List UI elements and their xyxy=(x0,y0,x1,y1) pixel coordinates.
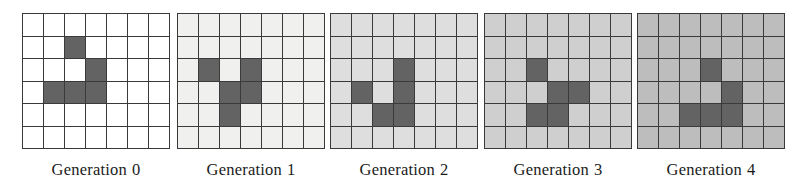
dead-cell xyxy=(722,37,743,60)
dead-cell xyxy=(178,127,199,150)
dead-cell xyxy=(743,82,764,105)
dead-cell xyxy=(659,14,680,37)
dead-cell xyxy=(611,104,632,127)
dead-cell xyxy=(569,14,590,37)
generation-panel-3: Generation3 xyxy=(484,0,632,196)
dead-cell xyxy=(107,59,128,82)
dead-cell xyxy=(436,37,457,60)
alive-cell xyxy=(394,104,415,127)
dead-cell xyxy=(743,14,764,37)
dead-cell xyxy=(457,82,478,105)
dead-cell xyxy=(199,127,220,150)
dead-cell xyxy=(352,127,373,150)
dead-cell xyxy=(485,37,506,60)
dead-cell xyxy=(178,104,199,127)
dead-cell xyxy=(220,37,241,60)
dead-cell xyxy=(680,59,701,82)
dead-cell xyxy=(128,127,149,150)
cell-grid xyxy=(330,13,478,149)
alive-cell xyxy=(394,82,415,105)
dead-cell xyxy=(86,127,107,150)
alive-cell xyxy=(220,82,241,105)
dead-cell xyxy=(611,14,632,37)
dead-cell xyxy=(764,37,785,60)
dead-cell xyxy=(611,37,632,60)
panel-caption: Generation3 xyxy=(514,160,603,180)
dead-cell xyxy=(485,127,506,150)
alive-cell xyxy=(373,104,394,127)
caption-label: Generation xyxy=(360,160,435,179)
dead-cell xyxy=(590,59,611,82)
dead-cell xyxy=(457,59,478,82)
dead-cell xyxy=(506,104,527,127)
dead-cell xyxy=(638,37,659,60)
grid-wrapper xyxy=(330,13,478,149)
dead-cell xyxy=(457,127,478,150)
generation-panel-0: Generation0 xyxy=(22,0,170,196)
dead-cell xyxy=(283,14,304,37)
dead-cell xyxy=(283,59,304,82)
cell-grid xyxy=(177,13,325,149)
dead-cell xyxy=(199,14,220,37)
dead-cell xyxy=(506,37,527,60)
alive-cell xyxy=(548,104,569,127)
dead-cell xyxy=(415,37,436,60)
caption-index: 4 xyxy=(747,160,755,179)
dead-cell xyxy=(304,37,325,60)
dead-cell xyxy=(199,37,220,60)
dead-cell xyxy=(23,59,44,82)
alive-cell xyxy=(394,59,415,82)
alive-cell xyxy=(680,104,701,127)
dead-cell xyxy=(304,82,325,105)
dead-cell xyxy=(415,104,436,127)
dead-cell xyxy=(548,14,569,37)
dead-cell xyxy=(23,37,44,60)
caption-label: Generation xyxy=(207,160,282,179)
cell-grid xyxy=(484,13,632,149)
dead-cell xyxy=(659,127,680,150)
dead-cell xyxy=(506,59,527,82)
dead-cell xyxy=(659,37,680,60)
dead-cell xyxy=(436,82,457,105)
dead-cell xyxy=(394,127,415,150)
dead-cell xyxy=(331,82,352,105)
dead-cell xyxy=(569,37,590,60)
dead-cell xyxy=(241,37,262,60)
dead-cell xyxy=(331,37,352,60)
alive-cell xyxy=(65,82,86,105)
dead-cell xyxy=(764,14,785,37)
dead-cell xyxy=(764,104,785,127)
dead-cell xyxy=(352,14,373,37)
dead-cell xyxy=(352,104,373,127)
alive-cell xyxy=(199,59,220,82)
dead-cell xyxy=(283,37,304,60)
dead-cell xyxy=(638,127,659,150)
dead-cell xyxy=(436,104,457,127)
dead-cell xyxy=(241,14,262,37)
dead-cell xyxy=(506,82,527,105)
dead-cell xyxy=(262,59,283,82)
dead-cell xyxy=(262,14,283,37)
dead-cell xyxy=(457,37,478,60)
dead-cell xyxy=(569,59,590,82)
dead-cell xyxy=(178,37,199,60)
dead-cell xyxy=(659,59,680,82)
dead-cell xyxy=(23,127,44,150)
dead-cell xyxy=(638,104,659,127)
dead-cell xyxy=(680,82,701,105)
dead-cell xyxy=(373,127,394,150)
alive-cell xyxy=(548,82,569,105)
dead-cell xyxy=(331,59,352,82)
dead-cell xyxy=(485,104,506,127)
grid-wrapper xyxy=(177,13,325,149)
dead-cell xyxy=(506,14,527,37)
dead-cell xyxy=(44,59,65,82)
dead-cell xyxy=(436,127,457,150)
dead-cell xyxy=(128,14,149,37)
dead-cell xyxy=(149,104,170,127)
dead-cell xyxy=(680,14,701,37)
dead-cell xyxy=(283,127,304,150)
panel-caption: Generation4 xyxy=(667,160,756,180)
caption-index: 0 xyxy=(132,160,140,179)
dead-cell xyxy=(394,37,415,60)
